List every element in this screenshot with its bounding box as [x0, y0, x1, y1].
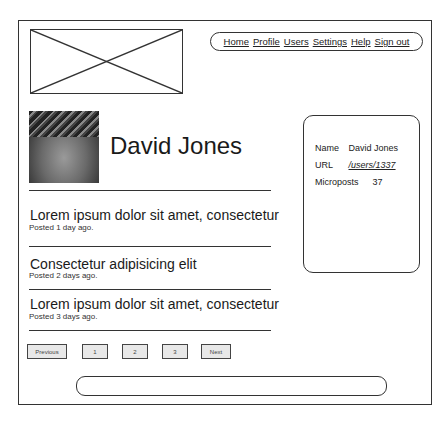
- microposts-count: 37: [373, 177, 383, 187]
- avatar-photo-detail: [29, 111, 99, 137]
- post-meta: Posted 2 days ago.: [29, 271, 98, 280]
- nav-profile[interactable]: Profile: [253, 36, 280, 47]
- name-label: Name: [315, 143, 346, 153]
- logo-placeholder: [30, 29, 183, 94]
- name-value: David Jones: [349, 143, 399, 153]
- profile-url-link[interactable]: /users/1337: [349, 160, 396, 170]
- divider: [29, 246, 271, 247]
- nav-sign-out[interactable]: Sign out: [375, 36, 410, 47]
- avatar: [29, 111, 99, 183]
- microposts-label: Microposts: [315, 177, 370, 187]
- divider: [29, 190, 271, 191]
- page-3-button[interactable]: 3: [162, 344, 188, 359]
- previous-button[interactable]: Previous: [27, 344, 67, 359]
- info-row-name: Name David Jones: [315, 143, 398, 153]
- footer-bar: [76, 376, 387, 396]
- post-meta: Posted 1 day ago.: [29, 223, 94, 232]
- nav-home[interactable]: Home: [224, 36, 249, 47]
- nav-users[interactable]: Users: [284, 36, 309, 47]
- post-title: Lorem ipsum dolor sit amet, consectetur: [30, 207, 279, 223]
- divider: [29, 289, 271, 290]
- image-placeholder-icon: [31, 30, 182, 93]
- nav-help[interactable]: Help: [351, 36, 371, 47]
- post-meta: Posted 3 days ago.: [29, 312, 98, 321]
- post-title: Consectetur adipisicing elit: [30, 256, 197, 272]
- page-2-button[interactable]: 2: [122, 344, 148, 359]
- next-button[interactable]: Next: [201, 344, 231, 359]
- info-row-url: URL /users/1337: [315, 160, 396, 170]
- divider: [29, 330, 271, 331]
- user-info-card: Name David Jones URL /users/1337 Micropo…: [303, 115, 420, 273]
- page-1-button[interactable]: 1: [82, 344, 108, 359]
- info-row-microposts: Microposts 37: [315, 177, 383, 187]
- profile-name: David Jones: [110, 132, 242, 160]
- top-nav: Home Profile Users Settings Help Sign ou…: [210, 32, 423, 51]
- url-label: URL: [315, 160, 346, 170]
- nav-settings[interactable]: Settings: [313, 36, 347, 47]
- post-title: Lorem ipsum dolor sit amet, consectetur: [30, 296, 279, 312]
